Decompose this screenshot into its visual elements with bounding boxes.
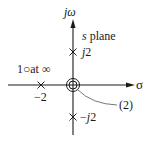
- multiplicity-leader-line: [78, 90, 117, 105]
- jw-axis-label: jω: [64, 6, 76, 18]
- zero-at-infinity-label: 1○at ∞: [17, 63, 50, 75]
- sigma-axis-label: σ: [136, 78, 143, 91]
- sigma-axis: [8, 83, 135, 88]
- s-plane-label: s plane: [82, 30, 116, 42]
- pole-label-minus-2: −2: [34, 91, 47, 103]
- jw-axis-arrow-icon: [71, 19, 76, 28]
- pole-label-j2: j2: [82, 46, 91, 58]
- multiplicity-label: (2): [119, 99, 133, 111]
- s-plane-diagram: jω σ s plane j2 −j2 −2 1○at ∞ (2): [0, 0, 152, 143]
- pole-label-minus-j2: −j2: [80, 111, 96, 123]
- sigma-axis-arrow-icon: [126, 83, 135, 88]
